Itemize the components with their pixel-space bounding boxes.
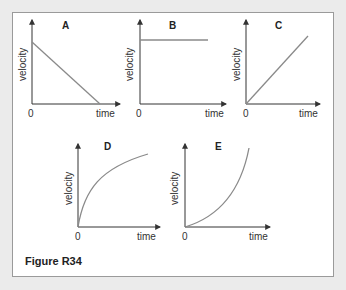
- origin-label: 0: [243, 108, 249, 119]
- x-axis-label: time: [137, 231, 156, 242]
- y-axis-label: velocity: [231, 48, 242, 81]
- x-axis-label: time: [96, 108, 115, 119]
- origin-label: 0: [75, 231, 81, 242]
- graph-a: A velocity 0 time: [17, 20, 120, 119]
- y-axis-label: velocity: [17, 48, 28, 81]
- x-axis-label: time: [299, 108, 318, 119]
- graph-b: B velocity 0 time: [124, 20, 226, 119]
- graph-c: C velocity 0 time: [231, 20, 320, 119]
- graph-d: D velocity 0 time: [63, 141, 160, 242]
- graph-title: A: [62, 20, 69, 31]
- y-axis-label: velocity: [63, 172, 74, 205]
- graph-title: C: [275, 20, 282, 31]
- graph-title: E: [215, 141, 222, 152]
- graph-title: D: [104, 141, 111, 152]
- velocity-curve: [246, 36, 308, 104]
- origin-label: 0: [182, 231, 188, 242]
- y-axis-label: velocity: [124, 48, 135, 81]
- velocity-curve: [78, 154, 148, 227]
- x-axis-label: time: [205, 108, 224, 119]
- graph-title: B: [169, 20, 176, 31]
- y-axis-label: velocity: [169, 172, 180, 205]
- velocity-curve: [32, 42, 100, 104]
- figure-graphs: A velocity 0 time B velocity 0 time C ve…: [0, 0, 346, 290]
- x-axis-label: time: [249, 231, 268, 242]
- origin-label: 0: [136, 108, 142, 119]
- graph-e: E velocity 0 time: [169, 141, 270, 242]
- origin-label: 0: [28, 108, 34, 119]
- velocity-curve: [185, 148, 249, 227]
- figure-caption: Figure R34: [25, 255, 82, 267]
